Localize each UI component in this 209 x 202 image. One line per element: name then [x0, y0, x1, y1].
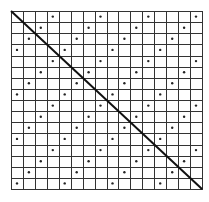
grid-dot [28, 171, 30, 173]
grid-dot [195, 104, 197, 106]
grid-dot [183, 116, 185, 118]
grid-dot [111, 182, 113, 184]
grid-dot [28, 82, 30, 84]
grid-dot [171, 127, 173, 129]
grid-dot [16, 138, 18, 140]
grid-dot [171, 171, 173, 173]
grid-dot [63, 138, 65, 140]
grid-diagram-canvas [0, 0, 209, 202]
grid-dot [135, 27, 137, 29]
grid-dot [76, 38, 78, 40]
grid-dot [16, 49, 18, 51]
grid-dot [99, 15, 101, 17]
grid-dot [195, 149, 197, 151]
grid-dot [123, 82, 125, 84]
grid-dot [171, 82, 173, 84]
grid-dot [63, 49, 65, 51]
grid-dot [28, 127, 30, 129]
grid-dot [52, 104, 54, 106]
grid-dot [135, 116, 137, 118]
grid-dot [16, 93, 18, 95]
grid-dot [147, 149, 149, 151]
grid-dot [76, 171, 78, 173]
grid-dot [16, 182, 18, 184]
grid-dot [183, 27, 185, 29]
grid-dot [159, 49, 161, 51]
grid-dot [76, 82, 78, 84]
grid-dot [111, 138, 113, 140]
grid-dot [40, 160, 42, 162]
grid-dot [52, 60, 54, 62]
grid-dot [171, 38, 173, 40]
grid-dot [183, 160, 185, 162]
grid-diagram [0, 0, 209, 202]
grid-dot [123, 38, 125, 40]
grid-dot [87, 71, 89, 73]
grid-dot [40, 71, 42, 73]
grid-dot [123, 171, 125, 173]
grid-dot [28, 38, 30, 40]
grid-dot [87, 160, 89, 162]
grid-dot [147, 15, 149, 17]
grid-dot [40, 116, 42, 118]
grid-dot [183, 71, 185, 73]
grid-dot [147, 104, 149, 106]
grid-dot [159, 182, 161, 184]
grid-dot [135, 71, 137, 73]
grid-dot [87, 27, 89, 29]
grid-dot [159, 93, 161, 95]
grid-dot [111, 49, 113, 51]
grid-dot [87, 116, 89, 118]
grid-dot [76, 127, 78, 129]
grid-dot [195, 15, 197, 17]
grid-dot [135, 160, 137, 162]
grid-dot [147, 60, 149, 62]
grid-dot [123, 127, 125, 129]
grid-dot [52, 149, 54, 151]
grid-dot [159, 138, 161, 140]
grid-dot [99, 60, 101, 62]
grid-dot [63, 93, 65, 95]
grid-dot [52, 15, 54, 17]
grid-dot [111, 93, 113, 95]
grid-dot [99, 104, 101, 106]
grid-dot [63, 182, 65, 184]
grid-dot [195, 60, 197, 62]
grid-dot [99, 149, 101, 151]
grid-dot [40, 27, 42, 29]
